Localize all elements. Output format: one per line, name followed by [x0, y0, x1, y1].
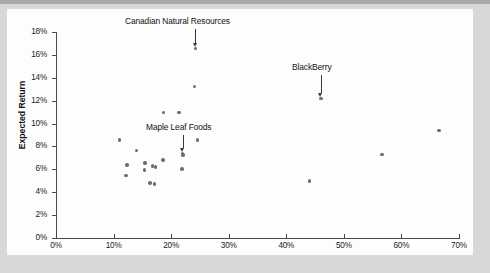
data-point — [143, 168, 147, 172]
point-annotation-label: Canadian Natural Resources — [125, 16, 230, 26]
x-axis-tick — [401, 234, 402, 239]
x-axis-tick-label: 70% — [444, 241, 474, 250]
data-point — [196, 138, 200, 142]
y-axis-tick-label: 12% — [17, 96, 47, 105]
annotation-arrow-stem — [183, 135, 184, 148]
data-point — [380, 153, 384, 157]
y-axis-tick-label: 6% — [17, 164, 47, 173]
data-point — [437, 129, 441, 133]
annotation-arrow-stem — [321, 75, 322, 93]
y-axis-tick — [52, 215, 57, 216]
data-point — [154, 165, 158, 169]
y-axis-tick-label: 18% — [17, 27, 47, 36]
annotation-arrow-head — [180, 148, 184, 152]
data-point — [193, 85, 197, 89]
x-axis-tick — [229, 234, 230, 239]
scatter-plot-figure: Expected Return 0%2%4%6%8%10%12%14%16%18… — [0, 0, 490, 273]
y-axis-line — [56, 32, 57, 239]
x-axis-tick — [171, 234, 172, 239]
data-point — [148, 181, 152, 185]
x-axis-tick — [344, 234, 345, 239]
x-axis-tick-label: 30% — [214, 241, 244, 250]
x-axis-line — [56, 238, 459, 239]
y-axis-tick — [52, 55, 57, 56]
y-axis-tick — [52, 124, 57, 125]
y-axis-tick — [52, 146, 57, 147]
point-annotation-label: Maple Leaf Foods — [146, 122, 211, 132]
x-axis-tick-label: 0% — [41, 241, 71, 250]
y-axis-tick — [52, 192, 57, 193]
x-axis-tick-label: 40% — [271, 241, 301, 250]
data-point — [118, 138, 122, 142]
annotation-arrow-head — [318, 93, 322, 97]
y-axis-tick-label: 16% — [17, 50, 47, 59]
x-axis-tick-label: 60% — [386, 241, 416, 250]
data-point — [177, 111, 181, 115]
x-axis-tick-label: 20% — [156, 241, 186, 250]
y-axis-tick — [52, 169, 57, 170]
x-axis-tick — [56, 234, 57, 239]
y-axis-tick — [52, 32, 57, 33]
data-point — [162, 111, 166, 115]
data-point — [135, 149, 139, 153]
x-axis-tick — [114, 234, 115, 239]
y-axis-tick-label: 4% — [17, 187, 47, 196]
y-axis-tick — [52, 101, 57, 102]
y-axis-tick-label: 10% — [17, 119, 47, 128]
point-annotation-label: BlackBerry — [292, 62, 332, 72]
x-axis-tick-label: 50% — [329, 241, 359, 250]
data-point — [161, 158, 165, 162]
data-point — [124, 174, 128, 178]
data-point — [181, 153, 185, 157]
x-axis-tick — [286, 234, 287, 239]
y-axis-tick — [52, 78, 57, 79]
x-axis-tick-label: 10% — [99, 241, 129, 250]
annotation-arrow-stem — [195, 29, 196, 43]
annotation-arrow-head — [193, 43, 197, 47]
data-point — [143, 161, 147, 165]
data-point — [180, 167, 184, 171]
y-axis-tick-label: 2% — [17, 210, 47, 219]
y-axis-tick-label: 14% — [17, 73, 47, 82]
data-point — [308, 179, 312, 183]
data-point — [125, 163, 129, 167]
data-point — [153, 182, 157, 186]
y-axis-tick-label: 8% — [17, 141, 47, 150]
x-axis-tick — [459, 234, 460, 239]
